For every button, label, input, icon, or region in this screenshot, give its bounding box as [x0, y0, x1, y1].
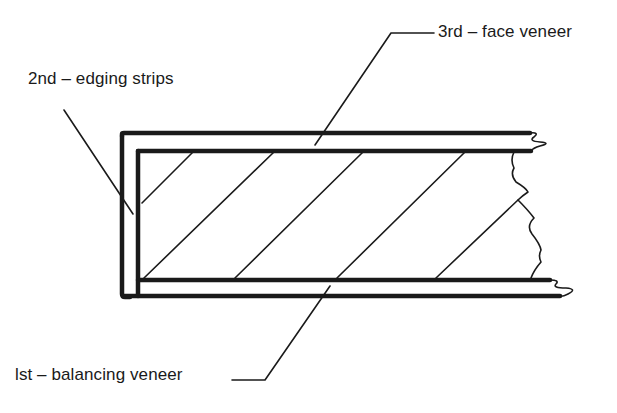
core-hatch-lines [142, 152, 518, 278]
edging-strips-layer [122, 136, 138, 297]
break-line [512, 152, 541, 278]
leader-face-veneer [315, 33, 434, 145]
label-face-veneer: 3rd – face veneer [438, 22, 572, 42]
label-edging-strips: 2nd – edging strips [28, 69, 174, 89]
label-balancing-veneer: lst – balancing veneer [15, 365, 183, 385]
face-veneer-layer [122, 133, 546, 151]
panel-cross-section-diagram [0, 0, 617, 413]
leader-balancing-veneer [232, 286, 330, 380]
balancing-veneer-layer [124, 280, 573, 296]
